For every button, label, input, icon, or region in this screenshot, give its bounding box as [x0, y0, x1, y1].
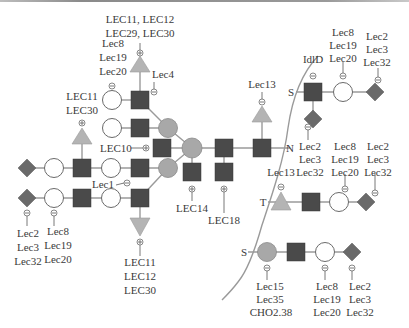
label-t-circle-line1: Lec8 [334, 140, 356, 152]
glcnac-square-icon [215, 139, 233, 157]
fucose-triangle-icon [72, 128, 92, 144]
fucose-inverted-triangle-icon [130, 218, 150, 236]
linkage-s-bottom: S [241, 246, 247, 258]
glcnac-square-icon [131, 189, 149, 207]
label-s-top-lower-diamond-line1: Lec2 [299, 140, 321, 152]
fucose-triangle-icon [271, 192, 291, 210]
label-t-circle-line2: Lec19 [331, 153, 359, 165]
galactose-circle-icon [102, 159, 121, 178]
label-s-top-diamond-line2: Lec3 [366, 43, 388, 55]
mannose-circle-icon [258, 243, 277, 262]
label-left-diamond-line3: Lec32 [14, 255, 41, 267]
linkage-t: T [260, 196, 267, 208]
label-s-bottom-circle-line3: Lec20 [313, 306, 341, 318]
galactose-circle-icon [330, 193, 349, 212]
label-s-bottom-grey-line2: Lec35 [256, 293, 284, 305]
glcnac-square-icon [73, 159, 91, 177]
glcnac-square-icon [183, 163, 201, 181]
label-left-circle-line1: Lec8 [47, 225, 69, 237]
bisecting-glcnac-square-icon [153, 139, 171, 157]
label-top-circle-line3: Lec20 [99, 65, 127, 77]
glcnac-square-icon [131, 159, 149, 177]
galactose-circle-icon [102, 189, 121, 208]
label-top-circle-line2: Lec19 [99, 51, 127, 63]
glcnac-square-icon [302, 193, 320, 211]
label-t-diamond-line2: Lec3 [367, 153, 389, 165]
fucose-triangle-icon [130, 56, 150, 72]
glcnac-square-icon [131, 119, 149, 137]
core-glcnac-square-icon [253, 139, 271, 157]
label-lec10: LEC10 [100, 142, 132, 154]
label-s-bottom-circle-line2: Lec19 [313, 293, 341, 305]
label-left-circle-line3: Lec20 [44, 253, 72, 265]
label-left-triangle-line2: LEC30 [66, 104, 98, 116]
label-s-top-circle-line3: Lec20 [329, 52, 357, 64]
galactose-circle-icon [103, 119, 122, 138]
sialic-acid-diamond-icon [18, 189, 36, 207]
label-s-top-circle-line1: Lec8 [332, 26, 354, 38]
label-s-bottom-grey-line3: CHO2.38 [250, 306, 293, 318]
label-s-top-diamond-line3: Lec32 [363, 56, 390, 68]
mannose-circle-icon [159, 119, 178, 138]
label-idld: IdlD [303, 53, 323, 65]
label-s-bottom-grey-line1: Lec15 [256, 280, 284, 292]
label-left-diamond-line1: Lec2 [17, 227, 39, 239]
label-bottom-triangle-line2: LEC12 [124, 270, 156, 282]
glcnac-square-icon [304, 83, 322, 101]
label-lec18: LEC18 [208, 214, 240, 226]
mannose-circle-icon [159, 159, 178, 178]
glcnac-square-icon [131, 91, 149, 109]
label-left-diamond-line2: Lec3 [17, 241, 39, 253]
core-fucose-triangle-icon [252, 106, 272, 122]
glcnac-square-icon [287, 243, 305, 261]
label-s-top-circle-line2: Lec19 [329, 39, 357, 51]
sialic-acid-diamond-icon [366, 83, 384, 101]
galactose-circle-icon [45, 159, 64, 178]
label-top-circle-line1: Lec8 [102, 37, 124, 49]
label-left-circle-line2: Lec19 [44, 239, 72, 251]
linkage-n: N [286, 142, 294, 154]
label-t-circle-line3: Lec20 [331, 166, 359, 178]
sialic-acid-diamond-icon [18, 159, 36, 177]
label-lec14: LEC14 [176, 202, 208, 214]
sialic-acid-diamond-icon [343, 243, 361, 261]
label-lec1: Lec1 [92, 178, 114, 190]
core-mannose-circle-icon [182, 138, 202, 158]
label-s-bottom-diamond-line2: Lec3 [349, 293, 371, 305]
label-s-bottom-diamond-line3: Lec32 [346, 306, 373, 318]
label-bottom-triangle-line1: LEC11 [124, 256, 155, 268]
sialic-acid-diamond-icon [357, 193, 375, 211]
label-lec4: Lec4 [152, 68, 174, 80]
label-s-bottom-circle-line1: Lec8 [316, 280, 338, 292]
label-left-triangle-line1: LEC11 [66, 90, 97, 102]
label-bottom-triangle-line3: LEC30 [124, 284, 156, 296]
label-t-diamond-line1: Lec2 [367, 140, 389, 152]
label-s-bottom-diamond-line1: Lec2 [349, 280, 371, 292]
label-t-lec13: Lec13 [267, 166, 295, 178]
label-s-top-lower-diamond-line3: Lec32 [296, 166, 323, 178]
glycan-diagram: LEC11, LEC12 LEC29, LEC30 Lec8 Lec19 Lec… [0, 0, 409, 328]
label-t-diamond-line3: Lec32 [364, 166, 391, 178]
label-s-top-diamond-line1: Lec2 [366, 30, 388, 42]
label-top-triangle-line1: LEC11, LEC12 [106, 13, 175, 25]
label-s-top-lower-diamond-line2: Lec3 [299, 153, 321, 165]
glcnac-square-icon [215, 163, 233, 181]
galactose-circle-icon [103, 91, 122, 110]
linkage-s-top: S [288, 86, 294, 98]
galactose-circle-icon [334, 83, 353, 102]
galactose-circle-icon [316, 243, 335, 262]
label-lec13-core: Lec13 [248, 78, 276, 90]
glcnac-square-icon [73, 189, 91, 207]
galactose-circle-icon [45, 189, 64, 208]
